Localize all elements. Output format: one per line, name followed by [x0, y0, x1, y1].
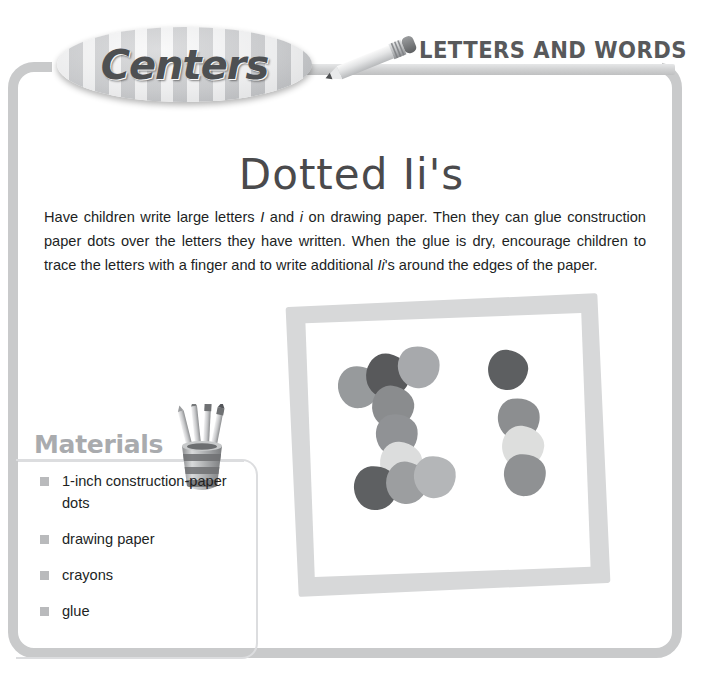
bullet-square-icon [40, 535, 49, 544]
materials-list-item-label: 1-inch construction-paper dots [62, 473, 227, 511]
materials-list-item: crayons [40, 564, 240, 586]
dotted-letters-paper-illustration [276, 282, 626, 612]
materials-list: 1-inch construction-paper dotsdrawing pa… [40, 470, 240, 636]
materials-list-item-label: drawing paper [62, 531, 155, 547]
materials-list-item: drawing paper [40, 528, 240, 550]
materials-list-item-label: crayons [62, 567, 113, 583]
materials-heading: Materials [34, 430, 163, 459]
section-title: LETTERS AND WORDS [419, 37, 687, 63]
materials-list-item: glue [40, 600, 240, 622]
materials-list-item: 1-inch construction-paper dots [40, 470, 240, 514]
page-banner: Centers [0, 0, 703, 110]
centers-badge: Centers [57, 27, 312, 102]
bullet-square-icon [40, 571, 49, 580]
activity-title: Dotted Ii's [0, 150, 703, 199]
centers-badge-label: Centers [101, 42, 269, 88]
materials-list-item-label: glue [62, 603, 90, 619]
bullet-square-icon [40, 477, 49, 486]
activity-description: Have children write large letters I and … [44, 205, 646, 277]
paper-surface [305, 313, 590, 577]
pencil-icon [325, 31, 417, 89]
bullet-square-icon [40, 607, 49, 616]
